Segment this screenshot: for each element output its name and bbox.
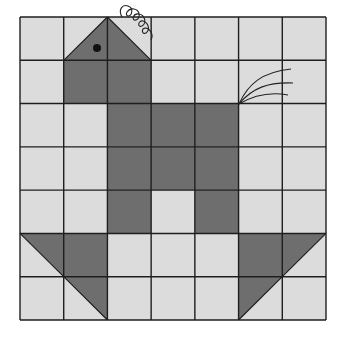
grid-cell [282,17,326,60]
grid-cell [282,277,326,320]
shaded-full-cell [195,104,239,147]
grid-cell [107,233,151,276]
shaded-full-cell [64,233,108,276]
grid-cell [64,104,108,147]
grid-cell [20,190,64,233]
grid-cell [195,277,239,320]
grid-cell [20,104,64,147]
shaded-full-cell [151,104,195,147]
grid-cell [151,17,195,60]
grid-cell [239,17,283,60]
shaded-full-cell [195,147,239,190]
chicken-grid-figure [0,0,349,343]
grid-cell [282,190,326,233]
shaded-full-cell [195,190,239,233]
grid-cell [195,233,239,276]
grid-cell [20,277,64,320]
grid-cell [107,277,151,320]
grid-cell [151,60,195,103]
grid-cell [282,60,326,103]
grid-cell [151,190,195,233]
shaded-full-cell [107,190,151,233]
grid-cell [20,147,64,190]
shaded-full-cell [107,104,151,147]
grid-cell [195,60,239,103]
shaded-full-cell [107,60,151,103]
grid-cell [282,104,326,147]
chicken-eye [93,44,101,52]
grid-cell [20,60,64,103]
shaded-full-cell [64,60,108,103]
grid-cell [151,233,195,276]
shaded-full-cell [151,147,195,190]
grid-cell [282,147,326,190]
shaded-full-cell [239,233,283,276]
grid-cell [64,147,108,190]
grid-cell [20,17,64,60]
grid-cell [195,17,239,60]
grid-cell [64,190,108,233]
shaded-full-cell [107,147,151,190]
grid-cell [239,147,283,190]
grid-cell [239,190,283,233]
grid-cell [151,277,195,320]
grid-cell [239,104,283,147]
